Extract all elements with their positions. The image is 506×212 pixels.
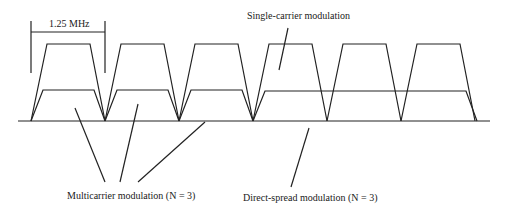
single-carrier-channel [327,44,401,121]
single-carrier-channel [105,44,179,121]
single-carrier-channel [179,44,253,121]
bandwidth-label: 1.25 MHz [49,18,90,29]
multicarrier-pointer-3 [138,122,205,182]
direct-spread-spectrum [253,91,477,121]
multicarrier-pointer-2 [120,104,138,182]
single-carrier-pointer [279,28,288,70]
multicarrier-subcarrier [105,90,179,121]
single-carrier-label: Single-carrier modulation [247,10,350,21]
single-carrier-channel [253,44,327,121]
multicarrier-subcarrier [31,90,105,121]
spectrum-diagram: 1.25 MHz Single-carrier modulation Multi… [0,0,506,212]
direct-spread-label: Direct-spread modulation (N = 3) [243,192,378,204]
multicarrier-subcarrier [179,90,253,121]
direct-spread-pointer [291,128,309,187]
single-carrier-channel [31,44,105,121]
single-carrier-spectra [31,44,475,121]
multicarrier-label: Multicarrier modulation (N = 3) [67,190,195,202]
single-carrier-channel [401,44,475,121]
multicarrier-spectra [31,90,253,121]
multicarrier-pointer-1 [75,108,105,182]
